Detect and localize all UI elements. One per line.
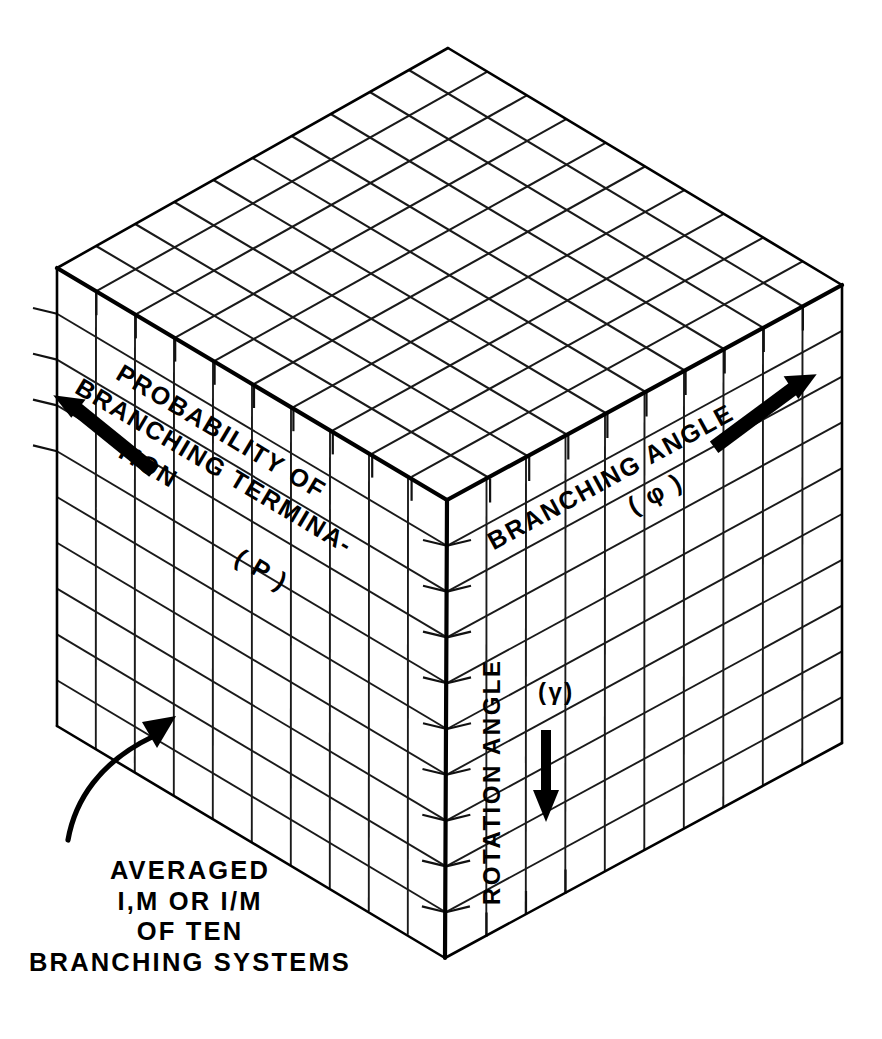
vertical-axis-symbol: (γ) (538, 678, 575, 705)
caption-block: AVERAGED I,M OR I/M OF TEN BRANCHING SYS… (0, 855, 380, 977)
caption-line-3: OF TEN (0, 916, 380, 947)
caption-line-2: I,M OR I/M (0, 886, 380, 917)
vertical-axis-label-line1: ROTATION ANGLE (478, 658, 505, 905)
caption-line-4: BRANCHING SYSTEMS (0, 947, 380, 978)
front-vertical-edge (445, 500, 447, 958)
caption-line-1: AVERAGED (0, 855, 380, 886)
diagram-root: PROBABILITY OF BRANCHING TERMINA- TION (… (0, 0, 882, 1039)
